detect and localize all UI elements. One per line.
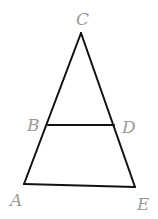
label-e: E — [136, 194, 150, 214]
label-c: C — [76, 9, 89, 29]
segment-ce — [81, 33, 135, 187]
triangle-diagram: C B D A E — [0, 0, 158, 219]
label-a: A — [8, 190, 22, 210]
label-d: D — [121, 117, 136, 137]
segment-ae — [24, 184, 135, 187]
segment-ca — [24, 33, 81, 184]
label-b: B — [26, 115, 40, 135]
